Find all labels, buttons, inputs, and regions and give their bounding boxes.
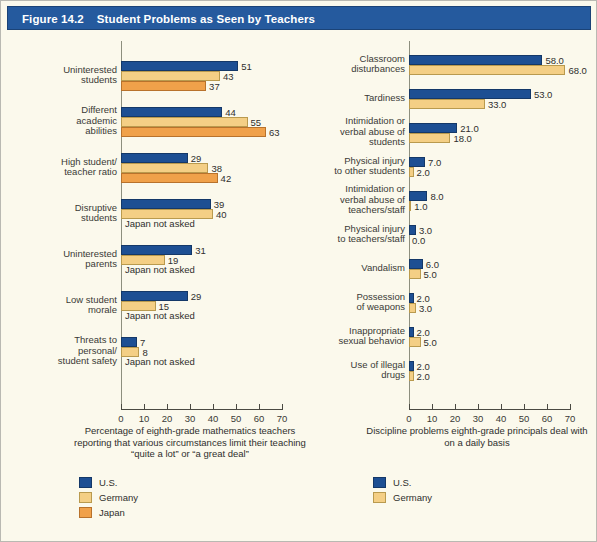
figure-header-band: Figure 14.2 Student Problems as Seen by … — [7, 6, 591, 30]
bar-us — [409, 55, 542, 65]
bar-us — [121, 199, 211, 209]
x-axis-tick-label: 70 — [555, 413, 585, 424]
legend-left: U.S.GermanyJapan — [79, 476, 138, 521]
category-label: Possession of weapons — [303, 292, 405, 313]
bar-value-label: 3.0 — [419, 226, 432, 236]
axis-caption-right: Discipline problems eighth-grade princip… — [363, 425, 591, 448]
bar-de — [409, 303, 416, 313]
bar-value-label: 2.0 — [417, 328, 430, 338]
bar-value-label: 2.0 — [417, 362, 430, 372]
bar-jp — [121, 173, 218, 183]
x-axis-tick — [259, 404, 260, 409]
bar-us — [121, 245, 192, 255]
bar-jp — [121, 81, 206, 91]
category-label: Tardiness — [303, 93, 405, 104]
legend-swatch-jp — [79, 507, 92, 518]
legend-item-us: U.S. — [79, 476, 138, 489]
legend-label: Germany — [393, 492, 432, 503]
legend-item-de: Germany — [79, 491, 138, 504]
bar-us — [409, 89, 531, 99]
category-label: Disruptive students — [11, 203, 117, 224]
x-axis-tick — [236, 404, 237, 409]
chart-panel-left: 010203040506070Uninterested students5143… — [9, 41, 299, 426]
bar-de — [121, 163, 208, 173]
x-axis-tick — [167, 404, 168, 409]
bar-us — [409, 293, 414, 303]
bar-us — [409, 225, 416, 235]
figure-container: Figure 14.2 Student Problems as Seen by … — [0, 0, 597, 542]
bar-value-label: 5.0 — [424, 338, 437, 348]
bar-de — [409, 65, 565, 75]
bar-de — [409, 167, 414, 177]
category-label: High student/ teacher ratio — [11, 157, 117, 178]
category-label: Intimidation or verbal abuse of students — [303, 116, 405, 148]
bar-value-label: 2.0 — [417, 168, 430, 178]
x-axis-tick — [524, 404, 525, 409]
legend-right: U.S.Germany — [373, 476, 432, 506]
x-axis-tick-label: 70 — [267, 413, 297, 424]
legend-swatch-us — [373, 477, 386, 488]
plot-area-right: 010203040506070Classroom disturbances58.… — [301, 41, 591, 426]
bar-value-label: 58.0 — [545, 56, 564, 66]
bar-value-label: 29 — [191, 292, 202, 302]
bar-us — [409, 361, 414, 371]
bar-de — [409, 269, 421, 279]
x-axis-tick — [213, 404, 214, 409]
x-axis-tick — [190, 404, 191, 409]
bar-value-label: 18.0 — [453, 134, 472, 144]
bar-de — [409, 133, 450, 143]
bar-value-label: 1.0 — [414, 202, 427, 212]
category-label: Low student morale — [11, 295, 117, 316]
bar-us — [409, 157, 425, 167]
category-label: Vandalism — [303, 263, 405, 274]
category-label: Physical injury to teachers/staff — [303, 224, 405, 245]
bar-de — [409, 201, 411, 211]
bar-us — [121, 61, 238, 71]
not-asked-note: Japan not asked — [125, 311, 195, 321]
bar-value-label: 21.0 — [460, 124, 479, 134]
category-label: Different academic abilities — [11, 105, 117, 137]
bar-us — [409, 259, 423, 269]
x-axis-tick — [455, 404, 456, 409]
category-label: Uninterested parents — [11, 249, 117, 270]
bar-value-label: 0.0 — [412, 236, 425, 246]
legend-label: Germany — [99, 492, 138, 503]
x-axis-tick — [432, 404, 433, 409]
bar-jp — [121, 127, 266, 137]
legend-label: Japan — [99, 507, 125, 518]
plot-area-left: 010203040506070Uninterested students5143… — [9, 41, 299, 426]
category-label: Uninterested students — [11, 65, 117, 86]
bar-value-label: 2.0 — [417, 294, 430, 304]
legend-label: U.S. — [99, 477, 117, 488]
bar-value-label: 51 — [241, 62, 252, 72]
bar-us — [409, 327, 414, 337]
category-label: Classroom disturbances — [303, 54, 405, 75]
legend-label: U.S. — [393, 477, 411, 488]
chart-panel-right: 010203040506070Classroom disturbances58.… — [301, 41, 591, 426]
x-axis-tick — [570, 404, 571, 409]
bar-value-label: 68.0 — [568, 66, 587, 76]
figure-title: Student Problems as Seen by Teachers — [97, 13, 315, 25]
bar-value-label: 39 — [214, 200, 225, 210]
bar-de — [121, 71, 220, 81]
bar-de — [409, 371, 414, 381]
bar-value-label: 7 — [140, 338, 145, 348]
x-axis-line — [121, 409, 283, 410]
bar-us — [409, 191, 427, 201]
bar-value-label: 31 — [195, 246, 206, 256]
category-label: Intimidation or verbal abuse of teachers… — [303, 184, 405, 216]
legend-item-de: Germany — [373, 491, 432, 504]
category-label: Use of illegal drugs — [303, 360, 405, 381]
x-axis-tick — [409, 404, 410, 409]
axis-caption-left: Percentage of eighth-grade mathematics t… — [71, 425, 309, 460]
bar-us — [409, 123, 457, 133]
bar-value-label: 7.0 — [428, 158, 441, 168]
not-asked-note: Japan not asked — [125, 265, 195, 275]
not-asked-note: Japan not asked — [125, 357, 195, 367]
category-label: Threats to personal/ student safety — [11, 335, 117, 367]
x-axis-tick — [121, 404, 122, 409]
bar-value-label: 2.0 — [417, 372, 430, 382]
x-axis-line — [409, 409, 571, 410]
bar-de — [409, 337, 421, 347]
bar-us — [121, 153, 188, 163]
